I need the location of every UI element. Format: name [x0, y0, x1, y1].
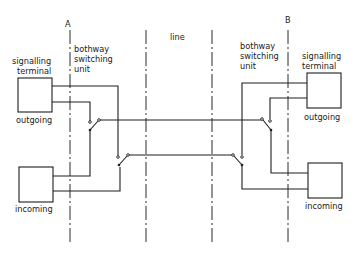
right-switch-1 — [261, 118, 273, 132]
left-outgoing-terminal-box — [18, 78, 52, 112]
right-switch-2 — [232, 154, 244, 167]
left-wire-incoming-a — [53, 131, 90, 176]
right-wire-incoming-a — [271, 130, 308, 173]
left-outgoing-label: outgoing — [16, 115, 52, 125]
right-unit-label-2: switching — [240, 51, 279, 61]
point-b-label: B — [285, 15, 291, 25]
left-switch-1 — [89, 119, 101, 132]
right-outgoing-terminal-box — [307, 73, 341, 108]
right-unit-label-3: unit — [240, 61, 257, 71]
right-terminal-label-2: terminal — [302, 61, 336, 71]
point-a-label: A — [65, 19, 71, 29]
bothway-switching-diagram: A B line bothway switching unit bothway … — [0, 0, 363, 253]
left-incoming-label: incoming — [15, 204, 53, 214]
right-terminal-label-1: signalling — [302, 51, 341, 61]
left-wire-outgoing-b — [52, 102, 90, 121]
right-unit-label-1: bothway — [240, 41, 275, 51]
left-switch-2 — [117, 154, 130, 167]
left-incoming-terminal-box — [19, 167, 53, 202]
line-label: line — [170, 32, 185, 42]
right-wire-outgoing-a — [242, 83, 307, 155]
right-wire-incoming-b — [242, 165, 308, 189]
right-outgoing-label: outgoing — [304, 112, 340, 122]
left-terminal-label-2: terminal — [17, 66, 51, 76]
right-incoming-terminal-box — [308, 163, 342, 198]
left-unit-label-1: bothway — [74, 44, 109, 54]
left-unit-label-3: unit — [74, 64, 91, 74]
left-wire-incoming-b — [53, 167, 120, 191]
left-wire-outgoing-a — [52, 86, 118, 158]
left-terminal-label-1: signalling — [12, 56, 51, 66]
left-unit-label-2: switching — [74, 54, 113, 64]
right-incoming-label: incoming — [305, 201, 343, 211]
